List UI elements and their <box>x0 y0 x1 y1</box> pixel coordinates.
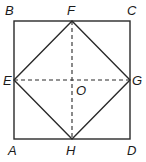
geometry-figure: B F C E O G A H D <box>0 0 146 162</box>
label-h: H <box>66 143 76 158</box>
label-a: A <box>7 143 17 158</box>
label-d: D <box>127 143 136 158</box>
label-o: O <box>76 83 86 98</box>
label-c: C <box>127 3 137 18</box>
label-f: F <box>67 3 76 18</box>
label-g: G <box>132 73 142 88</box>
label-b: B <box>5 3 14 18</box>
label-e: E <box>3 73 12 88</box>
